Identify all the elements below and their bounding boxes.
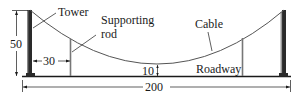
clearance-arrow-top xyxy=(156,65,158,68)
right-tower-base xyxy=(279,73,288,77)
supporting-rod-leader xyxy=(72,35,96,52)
clearance-arrow-bottom xyxy=(156,73,158,76)
left-tower-shade xyxy=(27,10,28,76)
bridge-diagram: 50 30 10 200 Tower Supporting rod Cable … xyxy=(0,0,296,97)
rod-offset-arrow-right xyxy=(66,60,70,63)
span-label: 200 xyxy=(145,80,163,94)
span-arrow-right xyxy=(286,86,290,89)
rod-offset-label: 30 xyxy=(43,54,55,68)
height-dim-arrow-top xyxy=(15,11,18,15)
right-tower xyxy=(282,10,286,76)
right-tower-shade xyxy=(281,12,283,76)
tower-height-label: 50 xyxy=(10,37,22,51)
cable-label: Cable xyxy=(195,17,223,31)
rod-offset-arrow-left xyxy=(33,60,37,63)
min-clearance-label: 10 xyxy=(142,64,154,78)
span-arrow-left xyxy=(23,86,27,89)
supporting-rod-label-line1: Supporting xyxy=(101,13,154,27)
height-dim-arrow-bottom xyxy=(15,72,18,76)
roadway-label: Roadway xyxy=(196,62,241,76)
supporting-rod-label-line2: rod xyxy=(101,27,117,41)
left-tower-base xyxy=(26,73,35,77)
cable-leader xyxy=(208,32,212,51)
left-tower xyxy=(28,10,32,76)
tower-label: Tower xyxy=(58,5,88,19)
